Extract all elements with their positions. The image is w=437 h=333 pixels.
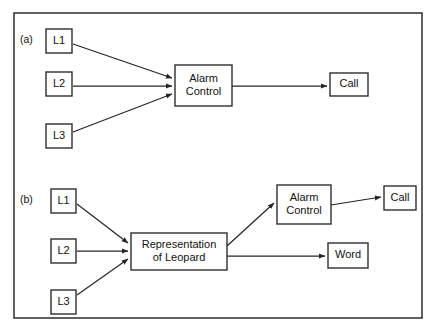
figure-frame [14, 13, 422, 318]
call-node-label: Call [391, 191, 410, 203]
call-node: Call [384, 186, 416, 210]
alarm-control-node: AlarmControl [277, 185, 331, 224]
word-node: Word [328, 243, 368, 268]
input-node-l1-label: L1 [57, 194, 69, 206]
alarm-control-node-label: Control [186, 85, 221, 97]
input-node-l2-label: L2 [53, 77, 65, 89]
call-node: Call [330, 73, 368, 96]
representation-of-leopard-node-label: of Leopard [153, 251, 206, 263]
input-node-l2: L2 [46, 72, 72, 96]
input-node-l3: L3 [51, 290, 76, 314]
alarm-control-node-label: Alarm [189, 72, 218, 84]
panel-label: (a) [20, 33, 33, 45]
alarm-control-node-label: Control [286, 204, 321, 216]
figure-diagram: L1L2L3AlarmControlCallL1L2L3Representati… [0, 0, 437, 333]
input-node-l1: L1 [46, 29, 72, 53]
word-node-label: Word [335, 248, 361, 260]
input-node-l3-label: L3 [53, 129, 65, 141]
alarm-control-node: AlarmControl [175, 65, 232, 106]
panel-label: (b) [20, 193, 33, 205]
input-node-l1-label: L1 [53, 34, 65, 46]
representation-of-leopard-node-label: Representation [142, 238, 217, 250]
input-node-l3-label: L3 [57, 295, 69, 307]
representation-of-leopard-node: Representationof Leopard [131, 233, 227, 270]
input-node-l3: L3 [46, 124, 72, 148]
input-node-l1: L1 [51, 189, 76, 213]
input-node-l2: L2 [51, 239, 76, 263]
call-node-label: Call [340, 77, 359, 89]
alarm-control-node-label: Alarm [290, 191, 319, 203]
diagram-canvas: L1L2L3AlarmControlCallL1L2L3Representati… [0, 0, 437, 333]
input-node-l2-label: L2 [57, 244, 69, 256]
